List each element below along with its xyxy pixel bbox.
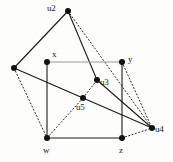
graph-figure: u2xyu3u5u4wz (0, 0, 173, 162)
graph-canvas (0, 0, 173, 162)
graph-node-u2[interactable] (65, 8, 71, 14)
graph-edge-u5-u3 (83, 80, 97, 98)
graph-node-y[interactable] (119, 59, 125, 65)
node-label-u3: u3 (100, 78, 109, 87)
node-label-z: z (119, 146, 123, 155)
graph-node-x[interactable] (44, 59, 50, 65)
node-label-u4: u4 (155, 125, 164, 134)
node-layer (11, 8, 155, 141)
graph-edge-y-u4 (122, 62, 152, 128)
graph-node-u5[interactable] (80, 95, 86, 101)
graph-edge-u3-u4 (97, 80, 152, 128)
graph-node-u1[interactable] (11, 65, 17, 71)
graph-edge-z-u4 (122, 128, 152, 138)
graph-node-z[interactable] (119, 135, 125, 141)
graph-edge-u2-u1 (14, 11, 68, 68)
graph-node-w[interactable] (44, 135, 50, 141)
node-label-w: w (43, 146, 49, 155)
edge-layer (14, 11, 152, 138)
graph-edge-u1-w (14, 68, 47, 138)
node-label-y: y (128, 55, 132, 64)
node-label-x: x (52, 50, 56, 59)
node-label-u5: u5 (76, 103, 85, 112)
node-label-u2: u2 (47, 4, 56, 13)
